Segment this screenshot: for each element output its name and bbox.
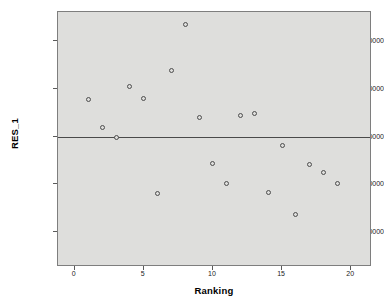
- y-axis-title: RES_1: [9, 104, 20, 164]
- data-point: [197, 115, 202, 120]
- x-tick-mark: [143, 266, 144, 270]
- data-point: [280, 143, 285, 148]
- data-point: [321, 170, 326, 175]
- data-point: [155, 191, 160, 196]
- x-tick-mark: [212, 266, 213, 270]
- data-point: [183, 22, 188, 27]
- zero-reference-line: [58, 137, 370, 138]
- data-point: [307, 162, 312, 167]
- data-point: [335, 181, 340, 186]
- scatter-chart: RES_1 50.0000025.000000.00000-25.00000-5…: [0, 0, 384, 305]
- data-point: [169, 68, 174, 73]
- data-point: [100, 125, 105, 130]
- x-tick-label: 0: [54, 270, 94, 277]
- data-point: [141, 96, 146, 101]
- x-tick-label: 15: [261, 270, 301, 277]
- plot-area: [57, 11, 371, 266]
- data-point: [210, 161, 215, 166]
- x-tick-label: 5: [123, 270, 163, 277]
- data-point: [266, 190, 271, 195]
- data-point: [127, 84, 132, 89]
- data-point: [238, 113, 243, 118]
- x-tick-mark: [74, 266, 75, 270]
- x-axis-title: Ranking: [57, 285, 371, 296]
- x-tick-mark: [350, 266, 351, 270]
- x-tick-label: 10: [192, 270, 232, 277]
- data-point: [114, 135, 119, 140]
- x-tick-mark: [281, 266, 282, 270]
- x-tick-label: 20: [330, 270, 370, 277]
- data-point: [252, 111, 257, 116]
- data-point: [86, 97, 91, 102]
- data-point: [224, 181, 229, 186]
- data-point: [293, 212, 298, 217]
